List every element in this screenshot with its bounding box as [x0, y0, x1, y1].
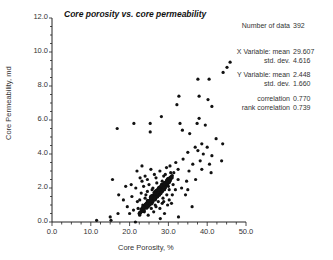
data-point [109, 219, 112, 222]
data-point [184, 193, 187, 196]
data-point [165, 166, 168, 169]
data-point [116, 212, 119, 215]
y-tick-label: 8.0 [38, 80, 48, 89]
data-point [186, 151, 189, 154]
data-point [178, 122, 181, 125]
data-point [134, 220, 137, 223]
data-point [194, 178, 197, 181]
data-point [128, 212, 131, 215]
data-point [210, 171, 213, 174]
stat-label: std. dev. [264, 80, 290, 87]
data-point [140, 180, 143, 183]
data-point [206, 98, 209, 101]
data-point [196, 122, 199, 125]
data-point [130, 195, 133, 198]
data-point [153, 173, 156, 176]
data-point [137, 207, 140, 210]
data-point [163, 183, 166, 186]
data-point [177, 178, 180, 181]
data-point [109, 215, 112, 218]
stat-value: 4.616 [293, 57, 311, 64]
data-point [122, 198, 125, 201]
data-point [177, 95, 180, 98]
stat-value: 0.770 [293, 95, 311, 102]
data-point [144, 197, 147, 200]
stat-value: 0.739 [293, 104, 311, 111]
data-point [166, 203, 169, 206]
data-point [158, 207, 161, 210]
data-point [171, 193, 174, 196]
data-point [177, 215, 180, 218]
stat-label: X Variable: mean [237, 48, 290, 55]
data-point [160, 115, 163, 118]
data-point [150, 207, 153, 210]
data-point [198, 117, 201, 120]
data-point [180, 186, 183, 189]
data-point [208, 163, 211, 166]
data-point [139, 211, 142, 214]
x-tick-label: 40.0 [200, 227, 215, 236]
data-point [168, 198, 171, 201]
data-point [140, 164, 143, 167]
y-axis-label: Core Permeability, md [4, 66, 13, 140]
data-point [157, 200, 160, 203]
data-point [199, 159, 202, 162]
data-point [164, 173, 167, 176]
data-point [174, 188, 177, 191]
data-point [155, 181, 158, 184]
data-point [222, 71, 225, 74]
data-point [151, 188, 154, 191]
stat-label: correlation [257, 95, 290, 102]
data-point [174, 161, 177, 164]
data-point [139, 176, 142, 179]
data-point [162, 188, 165, 191]
data-point [187, 169, 190, 172]
data-point [132, 122, 135, 125]
data-point [168, 188, 171, 191]
stat-label: std. dev. [264, 57, 290, 64]
data-point [126, 205, 129, 208]
data-point [188, 132, 191, 135]
data-point [153, 192, 156, 195]
data-points [95, 61, 232, 224]
data-point [147, 183, 150, 186]
data-point [172, 183, 175, 186]
data-point [142, 185, 145, 188]
data-point [163, 212, 166, 215]
data-point [181, 129, 184, 132]
data-point [169, 171, 172, 174]
data-point [144, 175, 147, 178]
data-point [182, 158, 185, 161]
data-point [152, 210, 155, 213]
data-point [144, 193, 147, 196]
data-point [136, 200, 139, 203]
y-tick-label: 6.0 [38, 114, 48, 123]
data-point [116, 127, 119, 130]
stat-label: Number of data [242, 22, 290, 29]
data-point [147, 214, 150, 217]
stat-value: 29.607 [293, 48, 314, 55]
data-point [170, 202, 173, 205]
data-point [225, 66, 228, 69]
data-point [186, 188, 189, 191]
data-point [117, 193, 120, 196]
data-point [124, 185, 127, 188]
x-tick-label: 10.0 [83, 227, 98, 236]
axes: 0.02.04.06.08.010.012.00.010.020.030.040… [33, 12, 253, 236]
data-point [135, 169, 138, 172]
data-point [198, 95, 201, 98]
data-point [191, 163, 194, 166]
y-tick-label: 2.0 [38, 182, 48, 191]
data-point [194, 146, 197, 149]
y-tick-label: 10.0 [33, 46, 48, 55]
data-point [161, 197, 164, 200]
y-tick-label: 0.0 [38, 216, 48, 225]
x-axis-label: Core Porosity, % [118, 243, 174, 252]
data-point [134, 186, 137, 189]
x-tick-label: 30.0 [161, 227, 176, 236]
data-point [191, 205, 194, 208]
data-point [140, 192, 143, 195]
data-point [146, 178, 149, 181]
data-point [148, 202, 151, 205]
data-point [154, 176, 157, 179]
